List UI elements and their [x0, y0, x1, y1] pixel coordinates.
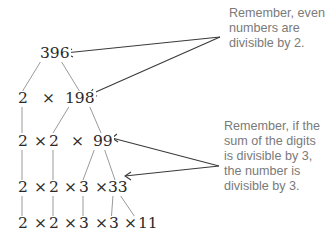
node-3: 3	[78, 180, 90, 196]
times-sign: ×	[63, 216, 78, 232]
times-sign: ×	[70, 134, 85, 150]
times-sign: ×	[41, 91, 56, 107]
node-198: 198	[64, 91, 96, 107]
node-2: 2	[17, 180, 29, 196]
node-3: 3	[108, 216, 120, 232]
node-2: 2	[17, 91, 29, 107]
node-33: 33	[107, 180, 129, 196]
node-99: 99	[92, 134, 114, 150]
node-3: 3	[78, 216, 90, 232]
node-11: 11	[137, 216, 159, 232]
node-2: 2	[17, 134, 29, 150]
node-2: 2	[48, 134, 60, 150]
times-sign: ×	[33, 134, 48, 150]
arrows	[65, 37, 220, 180]
times-sign: ×	[33, 216, 48, 232]
node-2: 2	[48, 180, 60, 196]
times-sign: ×	[94, 216, 109, 232]
note-digit-sum-divisible-by-3: Remember, if the sum of the digits is di…	[224, 119, 320, 194]
node-396: 396	[39, 46, 71, 62]
times-sign: ×	[123, 216, 138, 232]
times-sign: ×	[33, 180, 48, 196]
node-2: 2	[48, 216, 60, 232]
factor-tree-diagram: 396 2 × 198 2 × 2 × 99 2 × 2 × 3 × 33 2 …	[0, 0, 335, 236]
node-2: 2	[17, 216, 29, 232]
note-even-divisible-by-2: Remember, even numbers are divisible by …	[229, 6, 325, 51]
times-sign: ×	[63, 180, 78, 196]
